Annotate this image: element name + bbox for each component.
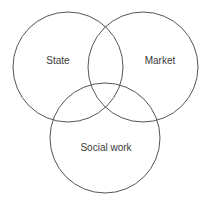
diagram-background: [0, 0, 212, 202]
label-market: Market: [145, 55, 176, 66]
venn-diagram: State Market Social work: [0, 0, 212, 202]
label-state: State: [46, 55, 70, 66]
label-social-work: Social work: [80, 142, 132, 153]
venn-diagram-canvas: State Market Social work: [0, 0, 212, 202]
